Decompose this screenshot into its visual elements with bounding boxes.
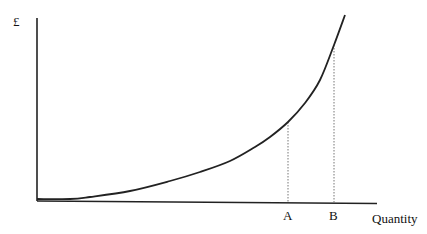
marker-b-label: B	[329, 209, 338, 222]
cost-curve-line	[37, 15, 345, 199]
x-axis-label: Quantity	[372, 212, 418, 225]
marker-a-label: A	[283, 209, 292, 222]
x-axis	[37, 201, 377, 204]
chart	[0, 0, 427, 234]
y-axis-label: £	[13, 15, 20, 28]
